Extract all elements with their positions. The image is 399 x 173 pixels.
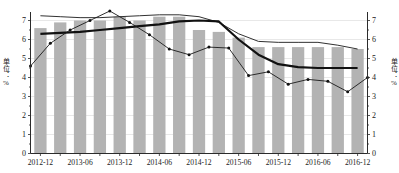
x-tick-label: 2013-06 [67,158,93,167]
data-point-marker [326,80,329,83]
y-axis-unit-label-left: 单位：% [1,58,11,87]
y2-tick-label: 6 [372,35,376,44]
bar [54,22,66,153]
data-point-marker [247,74,250,77]
bar [153,17,165,154]
bar [34,28,46,153]
bar [193,30,205,154]
y-tick-label: 1 [22,130,26,139]
data-point-marker [108,10,111,13]
y-tick-label: 4 [22,73,26,82]
bar [351,49,363,154]
y2-tick-label: 3 [372,92,376,101]
data-point-marker [346,90,349,93]
data-point-marker [148,33,151,36]
bar [74,21,86,154]
y-tick-label: 0 [22,149,26,158]
y-axis-tick-labels-right: 01234567 [372,16,376,158]
data-point-marker [188,53,191,56]
x-tick-label: 2014-06 [147,158,173,167]
y2-tick-label: 7 [372,16,376,25]
data-point-marker [267,70,270,73]
data-point-marker [49,42,52,45]
x-axis-tick-labels: 2012-122013-062013-122014-062014-122015-… [28,158,371,167]
y-axis-unit-label-right: 单位：% [389,58,399,87]
data-point-marker [307,78,310,81]
bar [252,47,264,153]
x-tick-label: 2012-12 [28,158,54,167]
x-tick-label: 2015-12 [266,158,292,167]
y2-tick-label: 5 [372,54,376,63]
x-tick-label: 2015-06 [226,158,252,167]
bar [233,38,245,154]
data-point-marker [227,47,230,50]
data-point-marker [128,21,131,24]
y-tick-label: 3 [22,92,26,101]
y-axis-tick-labels-left: 01234567 [22,16,26,158]
bar [312,47,324,153]
y-tick-label: 6 [22,35,26,44]
y-tick-label: 5 [22,54,26,63]
y-tick-label: 2 [22,111,26,120]
data-point-marker [168,48,171,51]
bar [332,47,344,153]
bar [213,32,225,154]
chart-container: 单位：% 单位：% 01234567 01234567 2012-122013-… [0,0,399,173]
data-point-marker [207,46,210,49]
bar [114,17,126,154]
y2-tick-label: 2 [372,111,376,120]
x-tick-label: 2014-12 [186,158,212,167]
y2-tick-label: 4 [372,73,376,82]
bar-series-group [34,17,363,154]
y2-tick-label: 1 [372,130,376,139]
legend-cropped [34,168,284,173]
x-tick-label: 2016-12 [345,158,371,167]
x-tick-label: 2013-12 [107,158,133,167]
data-point-marker [69,29,72,32]
data-point-marker [287,83,290,86]
y-tick-label: 7 [22,16,26,25]
bar [292,47,304,153]
bar [133,21,145,154]
bar [94,21,106,154]
data-point-marker [88,19,91,22]
x-tick-label: 2016-06 [305,158,331,167]
bar [173,17,185,154]
chart-plot-area: 01234567 01234567 2012-122013-062013-122… [0,0,399,173]
y2-tick-label: 0 [372,149,376,158]
